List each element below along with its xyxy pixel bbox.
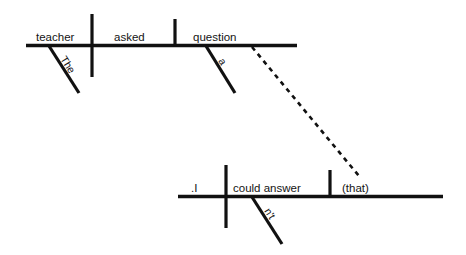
relative-pronoun-connector xyxy=(252,47,359,176)
modifier-line-a xyxy=(206,46,235,93)
label-subject-sub: .I xyxy=(191,182,197,194)
main-clause-group: teacher asked question The a xyxy=(26,14,297,93)
sentence-diagram: teacher asked question The a .I could an… xyxy=(0,0,466,255)
label-subject-main: teacher xyxy=(36,31,75,43)
label-verb-main: asked xyxy=(114,31,145,43)
label-object-sub: (that) xyxy=(342,182,369,194)
label-modifier-the: The xyxy=(58,54,78,76)
diagram-canvas: teacher asked question The a .I could an… xyxy=(0,0,466,255)
modifier-line-nt xyxy=(252,197,282,244)
label-verb-sub: could answer xyxy=(233,182,301,194)
label-object-main: question xyxy=(193,31,236,43)
connector-group xyxy=(252,47,359,176)
relative-clause-group: .I could answer (that) n't xyxy=(178,165,443,244)
